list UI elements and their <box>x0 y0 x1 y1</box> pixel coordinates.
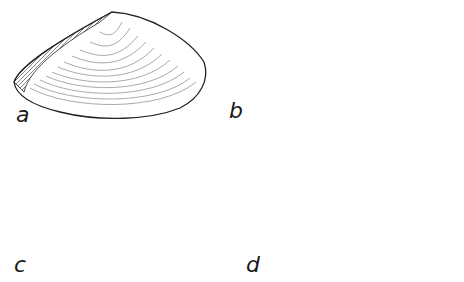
shell-figure <box>0 0 464 282</box>
panel-label-d: d <box>246 254 260 276</box>
panel-label-b: b <box>229 100 243 122</box>
shell-a-drawing <box>14 12 206 118</box>
panel-label-c: c <box>14 254 26 276</box>
panel-label-a: a <box>16 104 29 126</box>
